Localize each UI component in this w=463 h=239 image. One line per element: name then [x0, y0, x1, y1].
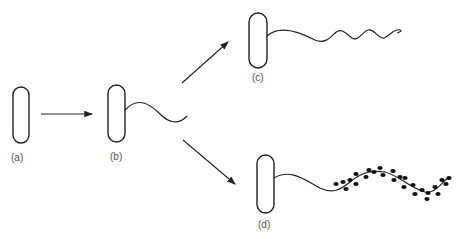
arrow-b-to-d [183, 140, 235, 184]
cell-b [108, 85, 125, 142]
label-c: (c) [252, 72, 264, 83]
cell-c [249, 13, 267, 68]
cell-a [13, 87, 29, 143]
arrow-b-to-c [182, 42, 228, 83]
flagellum-b [125, 102, 187, 121]
particles-d [333, 166, 451, 201]
label-b: (b) [110, 151, 122, 162]
cell-d [257, 155, 274, 213]
label-d: (d) [258, 219, 270, 230]
flagellum-c [267, 30, 401, 42]
diagram-canvas [0, 0, 463, 239]
label-a: (a) [11, 152, 23, 163]
